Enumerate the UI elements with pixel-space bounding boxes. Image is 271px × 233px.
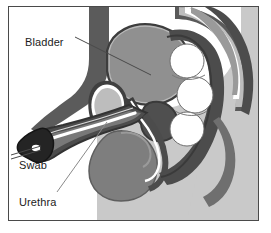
figure-frame: Bladder Swab Urethra [8, 6, 259, 221]
screenshot-root: Bladder Swab Urethra [0, 0, 271, 233]
label-urethra: Urethra [19, 196, 56, 208]
label-bladder: Bladder [25, 36, 64, 48]
label-swab: Swab [19, 159, 47, 171]
glans-swab-tip [17, 128, 53, 162]
